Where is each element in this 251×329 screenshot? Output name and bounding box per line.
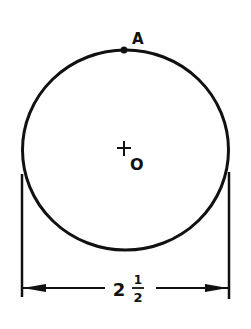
center-o-label: O [130,155,144,174]
dimension-whole: 2 [113,279,126,300]
dimension-numerator: 1 [134,273,142,287]
point-a-dot [121,47,128,54]
circle-diagram: A O 2 1 2 [0,0,251,329]
dimension-label: 2 1 2 [113,273,144,305]
dimension-denominator: 2 [133,290,142,305]
center-cross-icon [117,141,131,156]
point-a-label: A [132,30,144,48]
dimension-line [22,284,229,292]
diagram-canvas: A O 2 1 2 [0,0,251,329]
right-arrow-icon [205,284,228,292]
left-arrow-icon [23,284,46,292]
circle-outline [23,50,229,250]
